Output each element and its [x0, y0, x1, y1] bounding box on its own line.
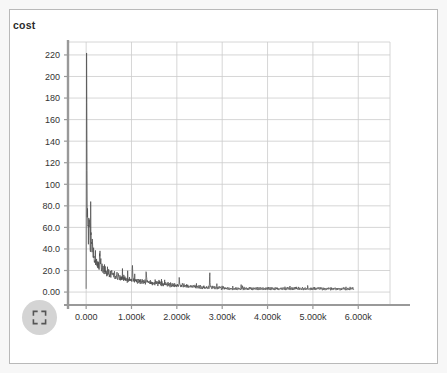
fullscreen-expand-icon [32, 310, 47, 325]
y-axis-tick-label: 100 [45, 180, 60, 190]
y-axis-tick-label: 120 [45, 158, 60, 168]
x-axis-tick-label: 4.000k [254, 312, 282, 322]
y-axis-tick-label: 20.0 [42, 266, 60, 276]
x-axis-tick-label: 0.000 [75, 312, 98, 322]
plot-container: 0.0020.040.060.080.010012014016018020022… [0, 0, 447, 373]
y-axis-tick-label: 0.00 [42, 287, 60, 297]
y-axis-tick-label: 180 [45, 93, 60, 103]
y-axis-tick-label: 200 [45, 72, 60, 82]
y-axis-tick-label: 140 [45, 137, 60, 147]
y-axis-tick-label: 160 [45, 115, 60, 125]
y-axis-tick-label: 60.0 [42, 223, 60, 233]
x-axis-tick-label: 2.000k [163, 312, 191, 322]
x-axis-tick-label: 1.000k [118, 312, 146, 322]
y-axis-tick-label: 80.0 [42, 201, 60, 211]
y-axis-tick-label: 40.0 [42, 244, 60, 254]
cost-line-chart: 0.0020.040.060.080.010012014016018020022… [0, 0, 447, 373]
y-axis-tick-label: 220 [45, 50, 60, 60]
chart-screen: cost 0.0020.040.060.080.0100120140160180… [0, 0, 447, 373]
fullscreen-button[interactable] [22, 300, 57, 335]
x-axis-tick-label: 6.000k [345, 312, 373, 322]
x-axis-tick-label: 5.000k [299, 312, 327, 322]
x-axis-tick-label: 3.000k [209, 312, 237, 322]
